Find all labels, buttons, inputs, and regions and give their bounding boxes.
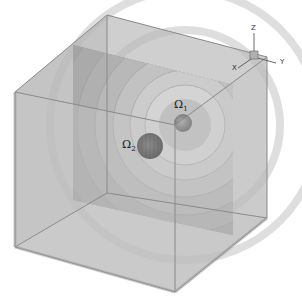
- axis-label-z: Z: [251, 24, 256, 32]
- omega1-symbol: Ω: [174, 98, 183, 111]
- axis-cube-icon: [250, 51, 258, 59]
- cube-diagram: [0, 0, 302, 307]
- omega2-label: Ω2: [122, 138, 136, 153]
- axis-label-y: Y: [280, 58, 284, 66]
- axis-label-x: X: [232, 64, 237, 72]
- omega1-subscript: 1: [183, 105, 187, 113]
- omega1-label: Ω1: [174, 98, 188, 113]
- omega2-subscript: 2: [131, 145, 135, 153]
- cube-front-face: [15, 92, 175, 292]
- omega2-symbol: Ω: [122, 138, 131, 151]
